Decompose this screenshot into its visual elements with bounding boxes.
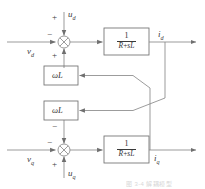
plant-q-transfer-function: 1 R+sL [104,140,149,159]
sign-ud-plus: + [52,13,57,22]
label-id: id [158,30,164,41]
iq-cross-diagonal [133,76,150,89]
plant-d-transfer-function: 1 R+sL [104,32,149,51]
label-vq: vq [27,155,34,166]
sign-uq-plus: + [52,160,57,169]
label-vd: vd [27,47,34,58]
sign-vq-minus: − [47,138,52,147]
plant-q-denominator: R+sL [117,150,137,158]
plant-d-denominator: R+sL [117,42,137,50]
sign-sum-d-bottom-plus: + [52,51,57,60]
sign-sum-q-top-minus: − [52,122,57,131]
figure-caption: 图 3-4 解耦模型 [126,179,198,187]
label-ud: ud [68,10,76,21]
id-cross-diagonal [133,98,165,111]
coupling-lower-label: ωL [52,106,63,115]
coupling-upper-label: ωL [52,71,63,80]
plant-q-numerator: 1 [117,140,137,148]
block-diagram-figure: vd − ud + + id 1 R+sL ωL ωL − vq − uq + … [0,0,205,189]
sign-vd-minus: − [47,30,52,39]
plant-d-numerator: 1 [117,32,137,40]
label-uq: uq [68,169,76,180]
label-iq: iq [154,154,160,165]
